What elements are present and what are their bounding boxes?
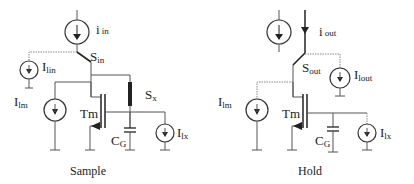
label-ilm: Ilm: [14, 94, 28, 110]
label-ilm: Ilm: [218, 94, 232, 110]
label-ilout: Ilout: [354, 67, 373, 83]
label-sout: Sout: [302, 60, 321, 76]
label-cg: CG: [111, 133, 127, 149]
arrow-down-icon: [301, 27, 309, 34]
current-source-iin: [65, 20, 89, 44]
current-source-ilout: [330, 68, 350, 88]
caption-hold: Hold: [298, 164, 322, 178]
current-source-ilin: [20, 61, 38, 79]
caption-sample: Sample: [70, 164, 106, 178]
label-iout: iout: [319, 24, 337, 39]
label-ilin: Ilin: [42, 59, 56, 75]
label-ilx: Ilx: [177, 125, 189, 141]
label-ilx: Ilx: [380, 125, 392, 141]
current-source-ilm: [246, 99, 268, 121]
arrow-left-icon: [293, 122, 302, 130]
arrow-left-icon: [91, 122, 100, 130]
sample-panel: iin Sin Ilin Sx Ilm: [14, 10, 189, 178]
switch-sin: [77, 52, 91, 62]
current-source-ilx: [156, 124, 174, 142]
label-tm: Tm: [282, 106, 300, 121]
current-source-ilm: [44, 99, 66, 121]
current-source-iin-disconnected: [267, 20, 291, 44]
label-iin: iin: [96, 22, 109, 37]
label-tm: Tm: [80, 106, 98, 121]
label-sx: Sx: [145, 87, 157, 103]
hold-panel: iout Sout Ilout Ilm: [218, 10, 392, 178]
label-sin: Sin: [90, 49, 105, 65]
current-source-ilx: [358, 124, 376, 142]
label-cg: CG: [315, 133, 331, 149]
circuit-diagram: iin Sin Ilin Sx Ilm: [0, 0, 414, 184]
